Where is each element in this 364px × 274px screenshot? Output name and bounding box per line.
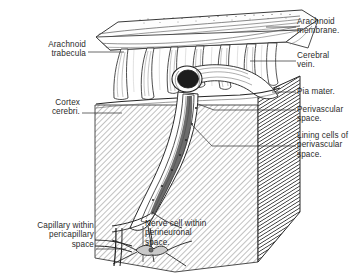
label-perivascular-space: Perivascular space. bbox=[297, 105, 343, 124]
label-arachnoid-membrane: Arachnoid membrane. bbox=[297, 17, 339, 36]
label-arachnoid-trabecula: Arachnoid trabecula bbox=[14, 40, 86, 59]
label-capillary-within-pericapillary-space: Capillary within pericapillary space bbox=[8, 221, 94, 249]
label-cortex-cerebri: Cortex cerebri. bbox=[14, 98, 80, 117]
label-nerve-cell-within-perineuronal-space: Nerve cell within perineuronal space. bbox=[145, 219, 231, 247]
anatomical-illustration: Arachnoid membrane. Cerebral vein. Pia m… bbox=[0, 0, 364, 274]
vein-lumen bbox=[178, 70, 199, 88]
label-lining-cells-perivascular-space: Lining cells of perivascular space. bbox=[297, 131, 348, 159]
label-pia-mater: Pia mater. bbox=[297, 87, 335, 96]
cortex-cut-face bbox=[258, 76, 300, 262]
neuron-nucleus bbox=[149, 248, 153, 252]
label-cerebral-vein: Cerebral vein. bbox=[297, 51, 329, 70]
arachnoid-membrane-slab bbox=[96, 10, 318, 50]
